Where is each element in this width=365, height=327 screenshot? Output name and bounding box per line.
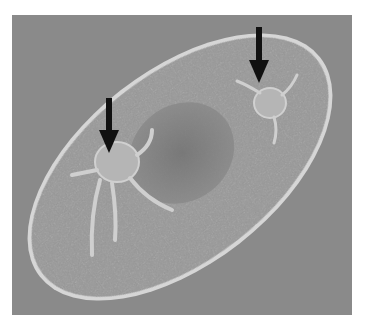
- micrograph: [12, 15, 352, 315]
- micrograph-frame: [12, 15, 352, 315]
